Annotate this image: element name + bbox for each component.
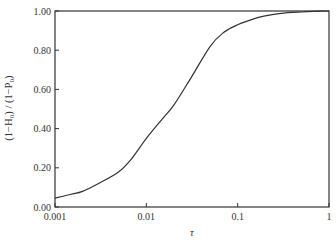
y-tick-label: 0.60 — [34, 84, 52, 95]
y-tick-label: 0.20 — [34, 162, 52, 173]
y-tick-label: 1.00 — [34, 6, 52, 17]
x-tick-label: 0.1 — [231, 211, 244, 222]
y-axis-label: (1−H₀) / (1−P₀) — [3, 75, 15, 141]
data-series — [55, 11, 329, 198]
y-tick-label: 0.80 — [34, 45, 52, 56]
x-axis-ticks: 0.0010.010.11 — [44, 203, 332, 222]
y-tick-label: 0.40 — [34, 123, 52, 134]
plot-border — [55, 11, 329, 207]
x-tick-label: 0.01 — [138, 211, 156, 222]
x-tick-label: 1 — [327, 211, 332, 222]
plot-area-frame — [55, 11, 329, 207]
x-axis-label: τ — [190, 227, 195, 238]
x-tick-label: 0.001 — [44, 211, 67, 222]
line-chart: 0.000.200.400.600.801.00 0.0010.010.11 τ… — [0, 0, 336, 242]
series-line — [55, 11, 329, 198]
